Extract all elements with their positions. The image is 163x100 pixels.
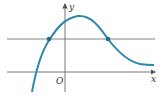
origin-label: O [56,76,64,86]
y-axis-label: y [68,2,75,12]
intersection-point-left [47,37,52,42]
function-graph: y x O [0,0,163,100]
intersection-point-right [106,37,111,42]
x-axis-label: x [151,74,156,84]
function-curve [32,16,154,92]
